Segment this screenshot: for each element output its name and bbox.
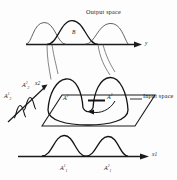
x2-set-sup-2: 2: [26, 81, 28, 85]
x1-membership-panel: [18, 135, 149, 159]
output-set-B-label: B: [72, 30, 75, 36]
x1-membership-curve-2: [86, 136, 128, 156]
x2-axis-label: x2: [35, 81, 40, 86]
x1-set-sup-1: 1: [64, 164, 66, 168]
output-axis-arrowhead: [134, 42, 142, 48]
x1-set-sub-1: 1: [65, 169, 67, 173]
projection-line-left: [47, 45, 51, 80]
x2-set-sup-1: 1: [8, 92, 10, 96]
input-space-panel: [8, 77, 155, 126]
surface-set-sup-1: 1: [67, 94, 69, 98]
x2-membership-curve-2: [24, 97, 36, 110]
x2-set-sub-2: 2: [27, 86, 29, 90]
output-space-panel: [26, 21, 142, 80]
output-axis-label: y: [145, 41, 147, 46]
projection-line-center-right: [103, 45, 115, 72]
surface-contour-curve: [92, 101, 115, 113]
surface-set-sup-2: 2: [111, 93, 113, 97]
x2-set-label-2: A22: [22, 82, 29, 88]
fuzzy-inference-figure: Output space B y Input space x2 x1 A1 A2…: [0, 0, 177, 180]
projection-line-center-left: [52, 45, 58, 74]
x1-set-label-1: A11: [60, 165, 67, 171]
output-curve-left: [26, 22, 66, 44]
output-curve-right: [85, 23, 128, 44]
x2-set-sub-1: 2: [9, 97, 11, 101]
input-space-label: Input space: [143, 93, 174, 99]
x1-axis-arrowhead: [140, 154, 149, 160]
surface-set-label-1: A1: [63, 95, 68, 101]
x1-set-sub-2: 1: [109, 169, 111, 173]
output-space-label: Output space: [86, 9, 121, 15]
x1-set-sup-2: 2: [108, 164, 110, 168]
x1-axis-label: x1: [152, 152, 157, 157]
x2-set-label-1: A12: [4, 93, 11, 99]
x1-membership-curve-1: [42, 135, 86, 156]
x1-set-label-2: A21: [104, 165, 111, 171]
surface-set-label-2: A2: [107, 94, 112, 100]
